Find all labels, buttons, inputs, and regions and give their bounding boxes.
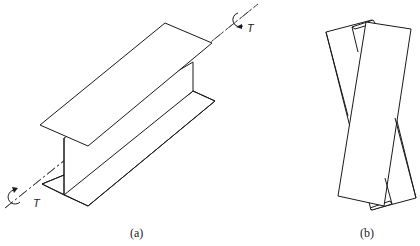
diagram-canvas [0, 0, 420, 246]
caption-b: (b) [360, 226, 374, 241]
twisted-section-figure [326, 20, 416, 210]
torque-label-top: T [247, 22, 254, 34]
torque-arrow-top [233, 13, 243, 29]
torque-label-bottom: T [33, 197, 40, 209]
caption-a: (a) [130, 226, 143, 241]
torque-arrow-bottom [8, 187, 20, 204]
i-beam-figure [5, 4, 258, 208]
